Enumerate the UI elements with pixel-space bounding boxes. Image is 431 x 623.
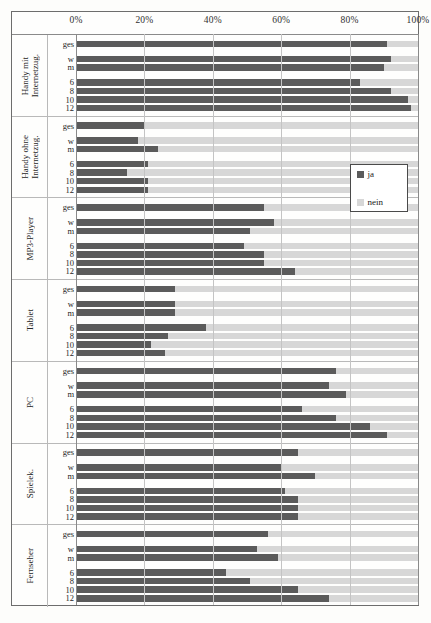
bar-track xyxy=(76,308,418,317)
row-label: 12 xyxy=(48,104,76,113)
bar-track xyxy=(76,121,418,130)
bar-segment-nein xyxy=(264,251,418,257)
chart-row: 12 xyxy=(48,594,418,603)
chart-row: w xyxy=(48,381,418,390)
bar-track xyxy=(76,577,418,586)
bar-track xyxy=(76,512,418,521)
bar-segment-ja xyxy=(76,432,387,438)
bar-segment-nein xyxy=(244,243,418,249)
group-label-text: Handy mit Internetzug. xyxy=(20,54,40,97)
chart-row: 10 xyxy=(48,422,418,431)
chart-row: m xyxy=(48,390,418,399)
legend-swatch-ja xyxy=(357,171,364,178)
bar-segment-ja xyxy=(76,137,138,143)
bar-segment-nein xyxy=(285,488,418,494)
bar-track xyxy=(76,405,418,414)
bar-segment-nein xyxy=(165,350,418,356)
chart-row: ges xyxy=(48,40,418,49)
bar-segment-ja xyxy=(76,531,268,537)
chart-row: 8 xyxy=(48,414,418,423)
chart-row: 10 xyxy=(48,585,418,594)
bar-track xyxy=(76,323,418,332)
chart-row: 6 xyxy=(48,405,418,414)
bar-segment-ja xyxy=(76,464,281,470)
bar-segment-ja xyxy=(76,79,360,85)
row-label: ges xyxy=(48,367,76,376)
bar-track xyxy=(76,40,418,49)
row-label: m xyxy=(48,227,76,236)
bar-segment-nein xyxy=(250,578,418,584)
chart-row: m xyxy=(48,553,418,562)
row-label: 8 xyxy=(48,87,76,96)
bar-track xyxy=(76,136,418,145)
bar-segment-ja xyxy=(76,187,148,193)
chart-row: 10 xyxy=(48,340,418,349)
bar-track xyxy=(76,594,418,603)
bar-track xyxy=(76,568,418,577)
bar-segment-ja xyxy=(76,406,302,412)
row-label: 12 xyxy=(48,594,76,603)
group-label-text: Tablet xyxy=(25,309,35,331)
legend-swatch-nein xyxy=(357,199,364,206)
chart-group: Fernsehergeswm681012 xyxy=(12,525,418,607)
group-label-text: Fernseher xyxy=(25,548,35,584)
bar-segment-ja xyxy=(76,309,175,315)
bar-segment-nein xyxy=(346,391,418,397)
bar-segment-nein xyxy=(336,415,418,421)
chart-row: ges xyxy=(48,448,418,457)
bar-track xyxy=(76,530,418,539)
bar-segment-nein xyxy=(315,473,418,479)
bar-segment-ja xyxy=(76,423,370,429)
bar-track xyxy=(76,422,418,431)
group-rows: geswm681012 xyxy=(48,362,418,443)
bar-segment-nein xyxy=(411,105,418,111)
gridline xyxy=(418,34,419,605)
row-label: m xyxy=(48,390,76,399)
chart-row: w xyxy=(48,136,418,145)
bar-segment-nein xyxy=(329,595,418,601)
row-label: m xyxy=(48,145,76,154)
row-label: ges xyxy=(48,530,76,539)
bar-segment-nein xyxy=(168,333,418,339)
bar-segment-nein xyxy=(302,406,418,412)
group-label: Spielek. xyxy=(12,444,48,525)
group-label: Fernseher xyxy=(12,525,48,607)
bar-segment-ja xyxy=(76,324,206,330)
bar-segment-nein xyxy=(295,268,418,274)
bar-track xyxy=(76,250,418,259)
row-label: m xyxy=(48,553,76,562)
group-label-text: MP3-Player xyxy=(25,217,35,261)
chart-row: 10 xyxy=(48,259,418,268)
bar-segment-nein xyxy=(274,219,418,225)
bar-track xyxy=(76,242,418,251)
group-label-text: Handy ohne Internetzug. xyxy=(20,135,40,179)
bar-segment-nein xyxy=(175,301,418,307)
bar-track xyxy=(76,332,418,341)
bar-segment-ja xyxy=(76,88,391,94)
bar-segment-ja xyxy=(76,228,250,234)
chart-row: 8 xyxy=(48,250,418,259)
bar-track xyxy=(76,87,418,96)
bar-track xyxy=(76,145,418,154)
chart-row: 12 xyxy=(48,512,418,521)
bar-segment-nein xyxy=(387,41,418,47)
row-label: ges xyxy=(48,285,76,294)
chart-row: 12 xyxy=(48,349,418,358)
row-label: 12 xyxy=(48,267,76,276)
chart-row: 8 xyxy=(48,332,418,341)
group-rows: geswm681012 xyxy=(48,444,418,525)
bar-segment-ja xyxy=(76,569,226,575)
bar-segment-nein xyxy=(370,423,418,429)
bar-segment-nein xyxy=(281,464,418,470)
bar-track xyxy=(76,227,418,236)
chart-row: 6 xyxy=(48,78,418,87)
bar-segment-ja xyxy=(76,488,285,494)
chart-group: Handy mit Internetzug.geswm681012 xyxy=(12,35,418,117)
chart-row: 6 xyxy=(48,487,418,496)
bar-track xyxy=(76,487,418,496)
chart-row: 6 xyxy=(48,242,418,251)
chart-row: 6 xyxy=(48,323,418,332)
bar-segment-ja xyxy=(76,260,264,266)
bar-track xyxy=(76,55,418,64)
row-label: m xyxy=(48,472,76,481)
